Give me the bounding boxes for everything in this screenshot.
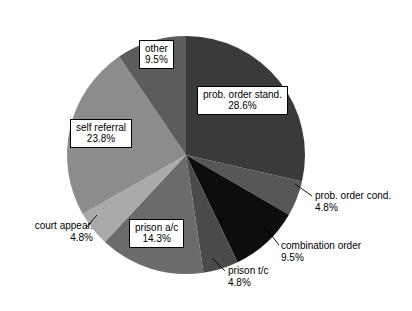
pie-slice-group [67, 36, 305, 274]
slice-label-combination-order: combination order 9.5% [281, 240, 361, 264]
slice-label-prison-ac: prison a/c 14.3% [129, 219, 184, 248]
slice-label-court-appear: court appear. 4.8% [8, 220, 93, 244]
slice-label-name: combination order [281, 240, 361, 252]
slice-label-name: other [145, 43, 168, 54]
slice-label-prison-tc: prison t/c 4.8% [228, 265, 269, 289]
slice-label-percent: 4.8% [315, 202, 391, 214]
slice-label-percent: 9.5% [281, 252, 361, 264]
slice-label-other: other 9.5% [139, 40, 174, 69]
slice-label-name: prison a/c [135, 222, 178, 233]
slice-label-prob-order-cond: prob. order cond. 4.8% [315, 190, 391, 214]
slice-label-prob-order-stand: prob. order stand. 28.6% [197, 86, 288, 115]
slice-label-percent: 28.6% [203, 100, 282, 111]
pie-chart-canvas [0, 0, 412, 311]
slice-label-name: prob. order cond. [315, 190, 391, 202]
slice-label-percent: 4.8% [228, 277, 269, 289]
slice-label-percent: 23.8% [76, 133, 126, 144]
pie-chart: prob. order stand. 28.6% other 9.5% self… [0, 0, 412, 311]
slice-label-name: prob. order stand. [203, 89, 282, 100]
slice-label-name: prison t/c [228, 265, 269, 277]
slice-label-self-referral: self referral 23.8% [70, 119, 132, 148]
slice-label-percent: 14.3% [135, 233, 178, 244]
slice-label-name: self referral [76, 122, 126, 133]
slice-label-name: court appear. [8, 220, 93, 232]
slice-label-percent: 9.5% [145, 54, 168, 65]
slice-label-percent: 4.8% [8, 232, 93, 244]
